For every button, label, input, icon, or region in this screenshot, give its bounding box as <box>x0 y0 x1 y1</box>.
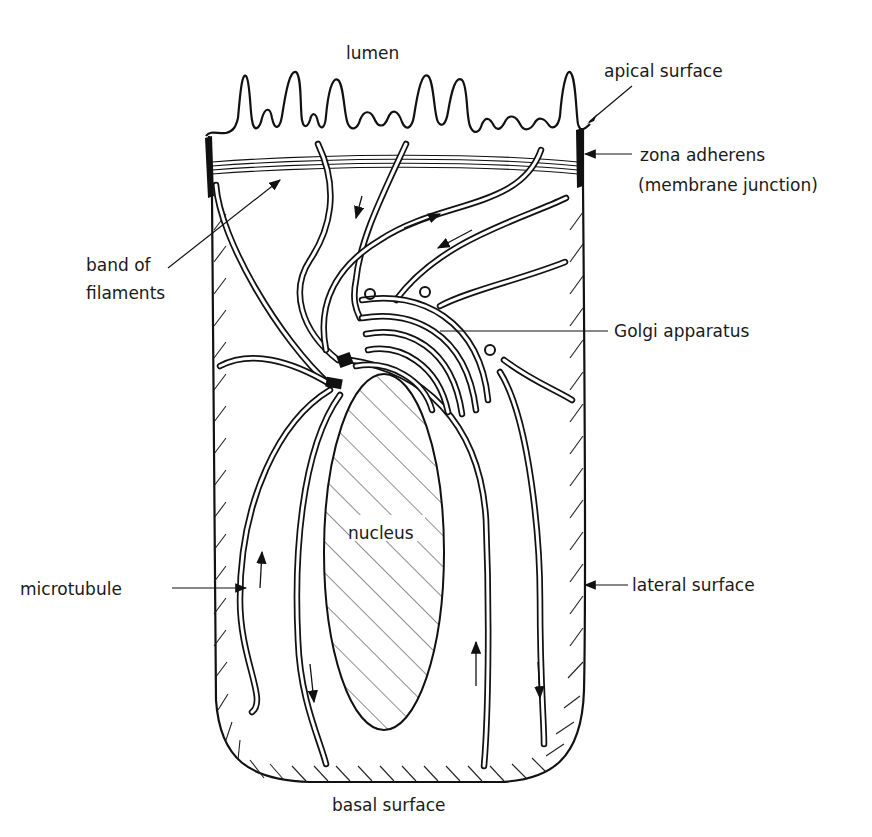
label-filaments: filaments <box>86 282 165 304</box>
label-apical-surface: apical surface <box>604 60 723 82</box>
label-lateral-surface: lateral surface <box>632 574 755 596</box>
label-golgi-apparatus: Golgi apparatus <box>614 320 749 342</box>
label-lumen: lumen <box>346 42 399 64</box>
label-zona-adherens: zona adherens <box>640 144 765 166</box>
microvilli-membrane <box>206 72 590 136</box>
label-band-of: band of <box>86 254 151 276</box>
centriole <box>336 352 353 368</box>
label-basal-surface: basal surface <box>332 794 445 816</box>
nucleus <box>324 374 444 730</box>
label-nucleus: nucleus <box>348 522 414 544</box>
lateral-hatch-left <box>214 214 240 760</box>
cell-diagram <box>0 0 872 837</box>
label-microtubule: microtubule <box>20 578 122 600</box>
lateral-hatch-right <box>546 212 583 756</box>
basal-hatch <box>250 758 546 781</box>
label-membrane-junction: (membrane junction) <box>638 174 818 196</box>
